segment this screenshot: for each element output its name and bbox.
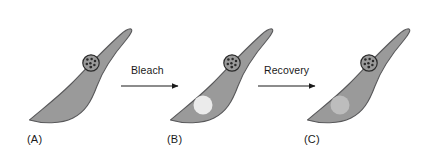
panel-a — [30, 29, 132, 123]
cell-body-a — [30, 29, 132, 123]
frap-figure: Bleach Recovery (A) (B) (C) — [0, 0, 426, 163]
panel-b — [171, 29, 273, 123]
arrow-label-bleach: Bleach — [131, 64, 164, 76]
nucleus-a — [83, 55, 99, 71]
panel-label-c: (C) — [304, 133, 320, 145]
cell-body-c — [308, 29, 410, 123]
bleach-spot-b — [194, 96, 213, 115]
bleach-spot-c — [331, 96, 350, 115]
nucleus-c — [361, 55, 377, 71]
frap-diagram-canvas — [0, 0, 426, 163]
cell-body-b — [171, 29, 273, 123]
panel-label-b: (B) — [167, 133, 182, 145]
panel-label-a: (A) — [27, 133, 42, 145]
nucleus-b — [224, 55, 240, 71]
panel-c — [308, 29, 410, 123]
arrow-label-recovery: Recovery — [264, 64, 309, 76]
